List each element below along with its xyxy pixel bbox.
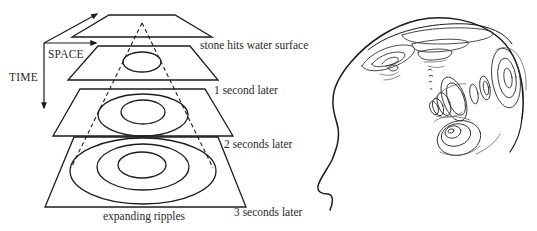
- layer-label-0: stone hits water surface: [200, 39, 308, 51]
- layer-3: [45, 137, 246, 207]
- water-plane-2: [53, 89, 233, 136]
- diagram-canvas: SPACE TIME ston: [0, 0, 537, 231]
- layer-1: [68, 46, 218, 80]
- layer-label-1: 1 second later: [214, 84, 278, 96]
- wave-cluster-center-cone: [428, 74, 472, 125]
- wave-dots: [428, 69, 433, 89]
- layer-label-3: 3 seconds later: [234, 206, 303, 218]
- layer-2: [53, 89, 233, 136]
- wave-cluster-back: [468, 46, 526, 109]
- wave-cluster-lower: [433, 116, 500, 160]
- caption-expanding-ripples: expanding ripples: [103, 210, 186, 223]
- water-plane-0: [72, 15, 212, 37]
- time-axis-label: TIME: [9, 71, 38, 83]
- wave-cluster-top: [402, 28, 493, 68]
- spacetime-ripple-diagram: SPACE TIME ston: [9, 14, 308, 223]
- layer-label-2: 2 seconds later: [224, 138, 293, 150]
- wave-cluster-forehead: [362, 45, 415, 80]
- space-axis-label: SPACE: [48, 48, 84, 60]
- head-outline: [318, 18, 523, 210]
- skull-back-curve: [510, 118, 522, 152]
- layer-0: [72, 15, 212, 37]
- water-plane-1: [68, 46, 218, 80]
- head-illustration: [318, 18, 526, 210]
